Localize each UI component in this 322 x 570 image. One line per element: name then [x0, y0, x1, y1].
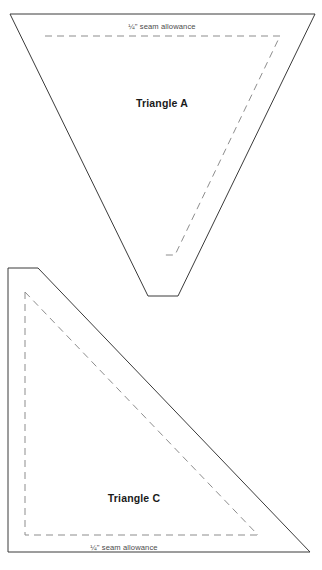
triangle-a-seam-line: [45, 36, 280, 255]
triangle-c-cut-line: [8, 268, 310, 552]
triangle-c-label: Triangle C: [108, 492, 161, 504]
triangle-a-label: Triangle A: [136, 97, 188, 109]
pattern-canvas: ¼" seam allowance Triangle A Triangle C …: [0, 0, 322, 570]
triangle-a-cut-line: [10, 14, 315, 296]
triangle-c-seam-allowance-label: ¼" seam allowance: [90, 543, 157, 552]
pattern-sheet: ¼" seam allowance Triangle A Triangle C …: [0, 0, 322, 570]
piece-triangle-a: ¼" seam allowance Triangle A: [10, 14, 315, 296]
triangle-a-seam-allowance-label: ¼" seam allowance: [128, 22, 195, 31]
piece-triangle-c: Triangle C ¼" seam allowance: [8, 268, 310, 552]
